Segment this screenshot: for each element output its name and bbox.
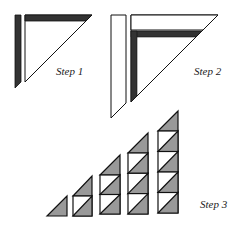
step2-dark-top-strip	[131, 31, 202, 37]
step2-dark-side-strip	[131, 31, 137, 102]
step-2-label: Step 2	[194, 65, 221, 77]
step2-top-strip	[131, 15, 218, 30]
step-3-group	[47, 111, 178, 216]
step-3-label: Step 3	[200, 198, 227, 210]
quilt-steps-diagram	[0, 0, 233, 227]
step3-column-3	[100, 155, 120, 214]
step-1-label: Step 1	[56, 65, 83, 77]
step1-top-strip	[25, 15, 92, 21]
step-1-group	[15, 15, 92, 88]
step1-side-strip	[15, 15, 21, 88]
step3-column-1	[47, 196, 67, 216]
step3-column-5	[158, 111, 178, 213]
step3-column-2	[73, 176, 92, 216]
step2-side-strip	[111, 15, 126, 118]
step3-column-4	[128, 133, 148, 214]
